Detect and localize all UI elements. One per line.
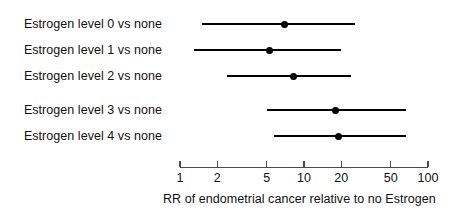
point-estimate-marker-2 (290, 73, 297, 80)
x-axis-tick-label-1: 2 (214, 172, 221, 185)
x-axis-tick-label-6: 100 (418, 172, 439, 185)
x-axis-tick-1 (217, 161, 218, 167)
point-estimate-marker-4 (335, 133, 342, 140)
x-axis-tick-label-3: 10 (297, 172, 311, 185)
x-axis-tick-label-4: 20 (334, 172, 348, 185)
x-axis-tick-label-0: 1 (177, 172, 184, 185)
x-axis-tick-5 (390, 161, 391, 167)
x-axis-tick-0 (179, 161, 180, 167)
x-axis-tick-label-5: 50 (384, 172, 398, 185)
x-axis-tick-6 (427, 161, 428, 167)
x-axis-tick-3 (303, 161, 304, 167)
x-axis-title: RR of endometrial cancer relative to no … (163, 193, 436, 206)
confidence-interval-line-0 (202, 23, 356, 25)
point-estimate-marker-1 (266, 47, 273, 54)
x-axis-tick-2 (266, 161, 267, 167)
point-estimate-marker-0 (281, 21, 288, 28)
x-axis-tick-label-2: 5 (263, 172, 270, 185)
x-axis-line (180, 167, 428, 168)
forest-plot-figure: Estrogen level 0 vs noneEstrogen level 1… (0, 0, 459, 213)
point-estimate-marker-3 (332, 107, 339, 114)
x-axis-tick-4 (341, 161, 342, 167)
